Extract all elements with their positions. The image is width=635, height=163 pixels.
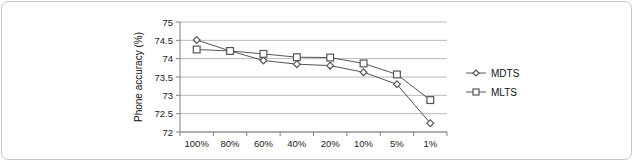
- y-tick-labels: 7272.57373.57474.575: [155, 17, 174, 138]
- data-marker-diamond: [327, 62, 334, 69]
- chart-figure: 7272.57373.57474.575 100%80%60%40%20%10%…: [0, 0, 635, 163]
- x-tick-label: 100%: [185, 138, 210, 149]
- data-marker-square: [260, 51, 267, 58]
- data-series-layer: [193, 37, 433, 127]
- data-marker-diamond: [473, 70, 479, 76]
- x-tick-label: 1%: [423, 138, 437, 149]
- x-tick-marks: [180, 132, 447, 136]
- y-tick-marks: [176, 22, 180, 132]
- x-tick-labels: 100%80%60%40%20%10%5%1%: [185, 138, 438, 149]
- y-tick-label: 72.5: [155, 108, 174, 119]
- data-marker-square: [293, 54, 300, 61]
- gridlines: [180, 22, 447, 132]
- data-marker-diamond: [193, 37, 200, 44]
- data-marker-square: [394, 71, 401, 78]
- x-tick-label: 80%: [221, 138, 241, 149]
- x-tick-label: 20%: [321, 138, 341, 149]
- x-tick-label: 60%: [254, 138, 274, 149]
- data-marker-diamond: [260, 57, 267, 64]
- x-tick-label: 5%: [390, 138, 404, 149]
- data-marker-square: [227, 48, 234, 55]
- data-marker-square: [473, 89, 479, 95]
- chart-legend: MDTSMLTS: [466, 68, 520, 98]
- data-marker-square: [427, 97, 434, 104]
- x-tick-label: 40%: [287, 138, 307, 149]
- data-marker-square: [360, 60, 367, 67]
- data-marker-diamond: [360, 69, 367, 76]
- y-axis-title: Phone accuracy (%): [133, 32, 144, 122]
- y-tick-label: 73: [162, 90, 173, 101]
- line-chart: 7272.57373.57474.575 100%80%60%40%20%10%…: [0, 0, 635, 163]
- data-marker-square: [193, 46, 200, 53]
- y-tick-label: 74: [162, 53, 173, 64]
- legend-label-mlts: MLTS: [491, 87, 517, 98]
- y-tick-label: 72: [162, 127, 173, 138]
- legend-label-mdts: MDTS: [491, 68, 520, 79]
- data-marker-square: [327, 54, 334, 61]
- data-marker-diamond: [293, 61, 300, 68]
- x-tick-label: 10%: [354, 138, 374, 149]
- y-tick-label: 73.5: [155, 72, 174, 83]
- y-tick-label: 75: [162, 17, 173, 28]
- y-tick-label: 74.5: [155, 35, 174, 46]
